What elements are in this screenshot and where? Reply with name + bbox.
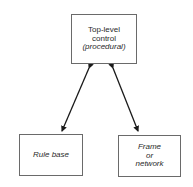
arrow-top-to-rule-base [62,68,89,131]
node-label-line: network [135,160,163,169]
node-top-level-control: Top-level control (procedural) [71,14,137,64]
node-label-line: (procedural) [82,43,125,52]
node-frame-or-network: Frame or network [118,135,181,177]
node-label-line: Rule base [33,151,69,160]
node-rule-base: Rule base [19,134,83,176]
arrow-top-to-frame-network [113,68,138,131]
